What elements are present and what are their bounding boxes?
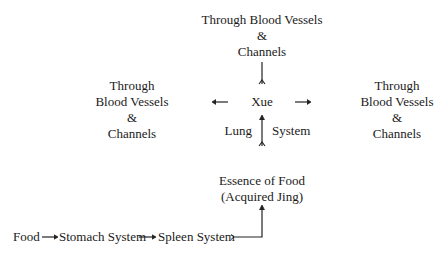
top-line-3: Channels [192, 44, 332, 60]
essence-line-2: (Acquired Jing) [207, 189, 317, 205]
system-label: System [272, 123, 322, 139]
right-line-3: & [352, 110, 442, 126]
left-line-2: Blood Vessels [82, 94, 182, 110]
left-line-3: & [82, 110, 182, 126]
right-line-1: Through [352, 78, 442, 94]
top-line-2: & [192, 28, 332, 44]
stomach-system-node: Stomach System [59, 229, 146, 245]
top-line-1: Through Blood Vessels [192, 12, 332, 28]
arrow-spleen-to-essence [234, 206, 262, 237]
essence-of-food-node: Essence of Food (Acquired Jing) [207, 173, 317, 205]
spleen-system-node: Spleen System [158, 229, 235, 245]
right-line-2: Blood Vessels [352, 94, 442, 110]
essence-line-1: Essence of Food [207, 173, 317, 189]
left-line-1: Through [82, 78, 182, 94]
right-through-blood-vessels-channels: Through Blood Vessels & Channels [352, 78, 442, 142]
right-line-4: Channels [352, 126, 442, 142]
lung-label: Lung [216, 123, 252, 139]
xue-node: Xue [242, 94, 282, 110]
left-line-4: Channels [82, 126, 182, 142]
top-through-blood-vessels-channels: Through Blood Vessels & Channels [192, 12, 332, 60]
left-through-blood-vessels-channels: Through Blood Vessels & Channels [82, 78, 182, 142]
food-node: Food [13, 229, 40, 245]
